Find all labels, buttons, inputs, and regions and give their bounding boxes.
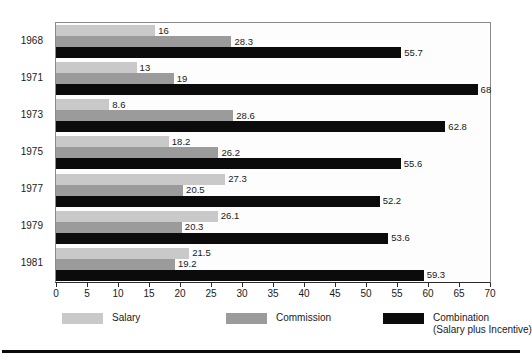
category-label-1968: 1968 xyxy=(21,36,43,46)
chart-legend: SalaryCommissionCombination(Salary plus … xyxy=(0,312,524,346)
bar-commission-1968[interactable] xyxy=(56,36,231,47)
bar-commission-1973[interactable] xyxy=(56,110,233,121)
x-tick-label: 55 xyxy=(391,289,402,299)
bar-salary-1968[interactable] xyxy=(56,25,155,36)
x-tick-label: 10 xyxy=(112,289,123,299)
bar-value-label: 19 xyxy=(174,74,188,84)
bar-commission-1971[interactable] xyxy=(56,73,174,84)
x-tick-mark xyxy=(149,283,150,287)
x-tick-label: 25 xyxy=(205,289,216,299)
x-tick-mark xyxy=(428,283,429,287)
x-tick-label: 45 xyxy=(329,289,340,299)
bar-value-label: 55.7 xyxy=(401,48,423,58)
legend-label: Combination xyxy=(433,312,532,324)
bar-row: 27.3 xyxy=(56,174,490,185)
bar-group: 21.519.259.3 xyxy=(56,246,490,283)
bar-row: 55.7 xyxy=(56,47,490,58)
category-label-1979: 1979 xyxy=(21,221,43,231)
bar-row: 20.3 xyxy=(56,222,490,233)
x-tick-label: 65 xyxy=(453,289,464,299)
bar-value-label: 27.3 xyxy=(225,174,247,184)
x-tick-label: 0 xyxy=(53,289,59,299)
bar-commission-1979[interactable] xyxy=(56,222,182,233)
bar-row: 28.3 xyxy=(56,36,490,47)
legend-swatch-icon xyxy=(62,313,103,324)
bar-value-label: 55.6 xyxy=(401,159,423,169)
bar-row: 68 xyxy=(56,84,490,95)
legend-item-commission[interactable]: Commission xyxy=(226,312,331,324)
bar-row: 16 xyxy=(56,25,490,36)
bar-row: 28.6 xyxy=(56,110,490,121)
bar-value-label: 19.2 xyxy=(175,260,197,270)
bar-value-label: 52.2 xyxy=(380,196,402,206)
bar-value-label: 20.3 xyxy=(182,223,204,233)
bar-value-label: 28.3 xyxy=(231,37,253,47)
category-axis-labels: 1968197119731975197719791981 xyxy=(0,22,50,283)
bar-value-label: 68 xyxy=(478,85,492,95)
bar-value-label: 18.2 xyxy=(169,137,191,147)
bar-commission-1977[interactable] xyxy=(56,185,183,196)
x-tick-mark xyxy=(56,283,57,287)
category-label-1975: 1975 xyxy=(21,147,43,157)
bar-value-label: 16 xyxy=(155,26,169,36)
bar-row: 19 xyxy=(56,73,490,84)
bottom-rule-divider xyxy=(2,350,520,353)
bar-combination-1973[interactable] xyxy=(56,121,445,132)
x-tick-mark xyxy=(335,283,336,287)
bar-combination-1975[interactable] xyxy=(56,158,401,169)
legend-text-wrap: Salary xyxy=(112,312,140,324)
bar-commission-1975[interactable] xyxy=(56,147,218,158)
bar-row: 20.5 xyxy=(56,185,490,196)
bar-row: 13 xyxy=(56,62,490,73)
legend-label: Salary xyxy=(112,312,140,324)
legend-text-wrap: Commission xyxy=(276,312,331,324)
x-tick-label: 60 xyxy=(422,289,433,299)
bar-salary-1977[interactable] xyxy=(56,174,225,185)
legend-item-salary[interactable]: Salary xyxy=(62,312,140,324)
x-tick-label: 40 xyxy=(298,289,309,299)
bar-salary-1975[interactable] xyxy=(56,136,169,147)
bar-commission-1981[interactable] xyxy=(56,259,175,270)
bar-row: 62.8 xyxy=(56,121,490,132)
x-tick-mark xyxy=(397,283,398,287)
bar-salary-1981[interactable] xyxy=(56,248,189,259)
x-tick-label: 30 xyxy=(236,289,247,299)
bars-layer: 1628.355.71319688.628.662.818.226.255.62… xyxy=(56,23,490,283)
x-tick-mark xyxy=(211,283,212,287)
bar-group: 131968 xyxy=(56,60,490,97)
x-tick-label: 50 xyxy=(360,289,371,299)
x-tick-mark xyxy=(366,283,367,287)
x-tick-label: 20 xyxy=(174,289,185,299)
bar-combination-1968[interactable] xyxy=(56,47,401,58)
category-label-1981: 1981 xyxy=(21,258,43,268)
bar-value-label: 21.5 xyxy=(189,249,211,259)
x-tick-label: 70 xyxy=(484,289,495,299)
x-tick-mark xyxy=(490,283,491,287)
bar-salary-1971[interactable] xyxy=(56,62,137,73)
x-tick-label: 5 xyxy=(84,289,90,299)
x-tick-mark xyxy=(242,283,243,287)
bar-value-label: 26.1 xyxy=(218,212,240,222)
legend-item-combination[interactable]: Combination(Salary plus Incentive) xyxy=(383,312,532,336)
bar-combination-1977[interactable] xyxy=(56,196,380,207)
bar-combination-1979[interactable] xyxy=(56,233,388,244)
category-label-1973: 1973 xyxy=(21,110,43,120)
bar-value-label: 53.6 xyxy=(388,234,410,244)
bar-group: 1628.355.7 xyxy=(56,23,490,60)
bar-value-label: 62.8 xyxy=(445,122,467,132)
bar-value-label: 20.5 xyxy=(183,185,205,195)
x-tick-mark xyxy=(180,283,181,287)
bar-value-label: 8.6 xyxy=(109,100,125,110)
x-tick-mark xyxy=(273,283,274,287)
bar-row: 26.2 xyxy=(56,147,490,158)
x-tick-mark xyxy=(459,283,460,287)
bar-salary-1973[interactable] xyxy=(56,99,109,110)
legend-swatch-icon xyxy=(383,313,424,324)
x-tick-mark xyxy=(304,283,305,287)
bar-salary-1979[interactable] xyxy=(56,211,218,222)
bar-combination-1971[interactable] xyxy=(56,84,478,95)
bar-combination-1981[interactable] xyxy=(56,270,424,281)
bar-row: 55.6 xyxy=(56,158,490,169)
legend-text-wrap: Combination(Salary plus Incentive) xyxy=(433,312,532,336)
